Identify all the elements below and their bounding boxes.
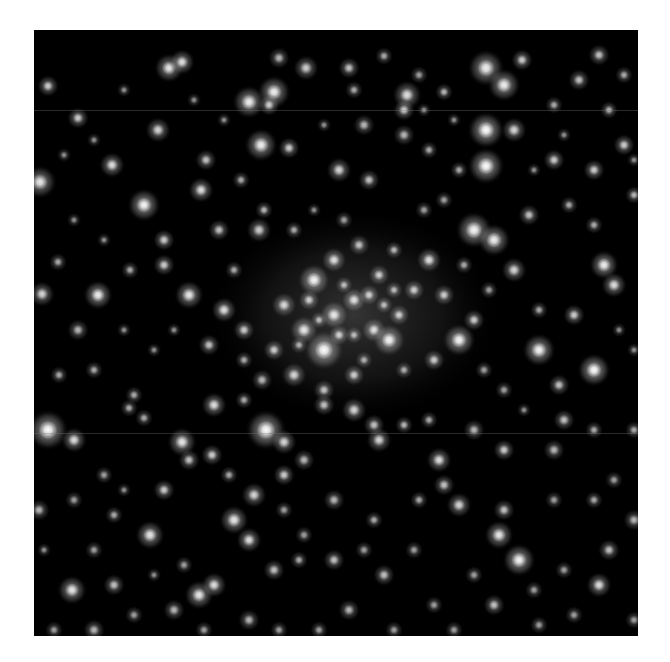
star [175, 55, 189, 69]
star [353, 239, 365, 251]
star [99, 470, 109, 480]
star [498, 444, 510, 456]
star [399, 420, 409, 430]
star [389, 625, 399, 635]
star [179, 560, 189, 570]
star [168, 604, 180, 616]
star [479, 365, 489, 375]
star [380, 331, 398, 349]
star [534, 620, 544, 630]
star [273, 52, 285, 64]
star [120, 486, 128, 494]
star [207, 398, 221, 412]
star [529, 585, 539, 595]
star [495, 76, 513, 94]
star [428, 354, 440, 366]
star [510, 551, 528, 569]
star [491, 527, 507, 543]
star [150, 346, 158, 354]
star [363, 174, 375, 186]
star [72, 112, 84, 124]
star [609, 475, 619, 485]
star [347, 403, 361, 417]
scan-seam-line [34, 433, 638, 434]
star [573, 74, 585, 86]
star [588, 164, 600, 176]
star-field [34, 30, 638, 636]
star-cluster-image [34, 30, 638, 636]
star [88, 624, 100, 636]
star [393, 309, 405, 321]
star [183, 454, 195, 466]
star [69, 495, 79, 505]
star [142, 527, 158, 543]
star [454, 165, 464, 175]
star [422, 253, 436, 267]
star [53, 257, 63, 267]
star [348, 369, 360, 381]
star [630, 346, 638, 354]
star [339, 215, 349, 225]
star [368, 419, 380, 431]
star [90, 287, 106, 303]
star [42, 80, 54, 92]
page: globular star cluster (grayscale astrono… [0, 0, 670, 662]
star [252, 223, 266, 237]
star [452, 498, 466, 512]
star [49, 625, 59, 635]
star [243, 614, 255, 626]
star [278, 469, 290, 481]
star [523, 209, 535, 221]
star [379, 300, 389, 310]
star [379, 51, 389, 61]
star [35, 287, 49, 301]
star [314, 315, 324, 325]
star [299, 61, 313, 75]
star [314, 625, 324, 635]
star [332, 163, 346, 177]
star [120, 326, 128, 334]
star [40, 546, 48, 554]
star [181, 287, 197, 303]
star [277, 435, 291, 449]
star [199, 625, 209, 635]
star [438, 289, 450, 301]
star [596, 257, 612, 273]
star [389, 285, 399, 295]
star [378, 569, 390, 581]
star [124, 403, 134, 413]
star [548, 154, 560, 166]
star [530, 341, 548, 359]
star [589, 220, 599, 230]
star [224, 470, 234, 480]
star [414, 70, 424, 80]
star [408, 284, 420, 296]
star [89, 545, 99, 555]
star [289, 225, 299, 235]
star [90, 136, 98, 144]
star [54, 370, 64, 380]
star [369, 515, 379, 525]
star [333, 329, 345, 341]
star [589, 495, 599, 505]
star [468, 314, 480, 326]
star [558, 414, 570, 426]
star [560, 131, 568, 139]
star [190, 96, 198, 104]
star [174, 434, 190, 450]
star [129, 390, 139, 400]
star [277, 298, 291, 312]
star [488, 599, 500, 611]
star [158, 484, 170, 496]
star [217, 303, 231, 317]
star [553, 379, 565, 391]
star [593, 49, 605, 61]
star [363, 289, 375, 301]
star [120, 86, 128, 94]
star [424, 145, 434, 155]
star [439, 195, 449, 205]
star [439, 87, 449, 97]
star [239, 355, 249, 365]
star [158, 259, 170, 271]
star [72, 324, 84, 336]
